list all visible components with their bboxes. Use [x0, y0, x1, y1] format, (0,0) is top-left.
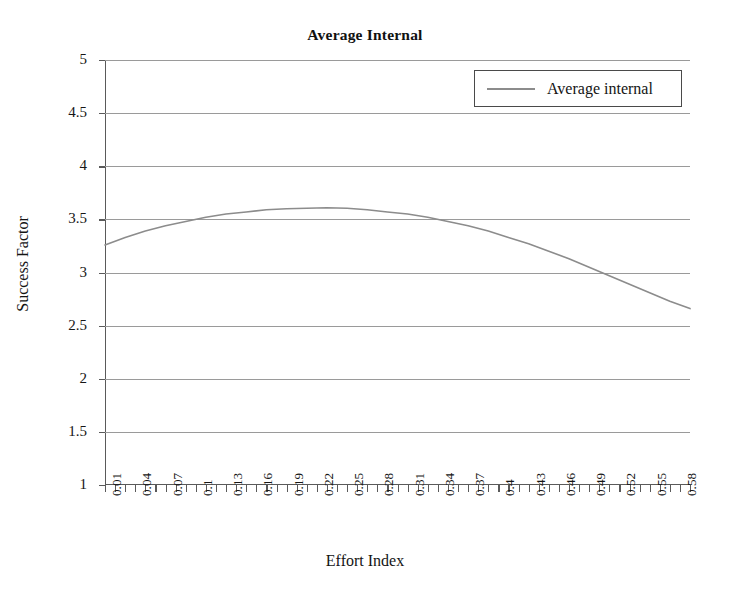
- x-axis-tick: [559, 485, 560, 492]
- y-axis-tick-label: 2: [27, 371, 87, 386]
- x-axis-tick-label: 0.58: [685, 473, 698, 496]
- x-axis-tick: [498, 485, 499, 492]
- x-axis-tick-label: 0.31: [413, 473, 426, 496]
- x-axis-tick: [287, 485, 288, 492]
- x-axis-tick: [428, 485, 429, 492]
- x-axis-tick-label: 0.46: [564, 473, 577, 496]
- y-axis-tick-label: 4.5: [27, 105, 87, 120]
- x-axis-tick: [347, 485, 348, 492]
- x-axis-tick: [458, 485, 459, 492]
- x-axis-tick-label: 0.49: [594, 473, 607, 496]
- x-axis-tick: [609, 485, 610, 492]
- x-axis-tick: [226, 485, 227, 492]
- x-axis-tick-label: 0.28: [382, 473, 395, 496]
- y-axis-tick-label: 1: [27, 477, 87, 492]
- legend-label: Average internal: [547, 80, 653, 98]
- x-axis-tick: [256, 485, 257, 492]
- x-axis-tick-label: 0.07: [171, 473, 184, 496]
- x-axis-tick: [307, 485, 308, 492]
- x-axis-tick-label: 0.01: [110, 473, 123, 496]
- series-line-average-internal: [105, 60, 690, 485]
- x-axis-tick-label: 0.16: [261, 473, 274, 496]
- plot-area: [105, 60, 690, 485]
- x-axis-tick: [519, 485, 520, 492]
- x-axis-tick: [579, 485, 580, 492]
- y-axis-tick-label: 2.5: [27, 318, 87, 333]
- y-axis-tick-label: 1.5: [27, 424, 87, 439]
- x-axis-tick: [438, 485, 439, 492]
- x-axis-tick: [408, 485, 409, 492]
- x-axis-tick: [589, 485, 590, 492]
- x-axis-title: Effort Index: [0, 552, 730, 570]
- x-axis-tick-label: 0.52: [624, 473, 637, 496]
- y-axis-tick-label: 5: [27, 52, 87, 67]
- x-axis-tick-label: 0.04: [140, 473, 153, 496]
- x-axis-tick-label: 0.19: [292, 473, 305, 496]
- x-axis-tick-label: 0.1: [201, 480, 214, 496]
- x-axis-tick-label: 0.13: [231, 473, 244, 496]
- x-axis-tick: [277, 485, 278, 492]
- chart-container: Average Internal 54.543.532.521.51 0.010…: [0, 0, 730, 594]
- x-axis-tick: [619, 485, 620, 492]
- x-axis-tick: [196, 485, 197, 492]
- y-axis-tick-label: 4: [27, 158, 87, 173]
- x-axis-tick: [529, 485, 530, 492]
- x-axis-tick: [125, 485, 126, 492]
- x-axis-tick: [105, 485, 106, 492]
- x-axis-tick: [337, 485, 338, 492]
- y-axis-tick-label: 3.5: [27, 211, 87, 226]
- x-axis-tick: [216, 485, 217, 492]
- x-axis-tick: [640, 485, 641, 492]
- x-axis-tick-label: 0.4: [503, 480, 516, 496]
- x-axis-tick-label: 0.34: [443, 473, 456, 496]
- x-axis-tick: [377, 485, 378, 492]
- x-axis-tick: [468, 485, 469, 492]
- chart-legend: Average internal: [474, 70, 682, 107]
- x-axis-tick: [367, 485, 368, 492]
- x-axis-tick-label: 0.25: [352, 473, 365, 496]
- x-axis-tick: [166, 485, 167, 492]
- x-axis-tick-label: 0.43: [534, 473, 547, 496]
- x-axis-tick-labels: 0.010.040.070.10.130.160.190.220.250.280…: [105, 496, 705, 556]
- x-axis-tick: [317, 485, 318, 492]
- x-axis-tick: [246, 485, 247, 492]
- x-axis-tick: [155, 485, 156, 492]
- x-axis-tick: [488, 485, 489, 492]
- x-axis-tick-label: 0.55: [655, 473, 668, 496]
- y-axis-tick-label: 3: [27, 265, 87, 280]
- x-axis-tick-label: 0.37: [473, 473, 486, 496]
- x-axis-tick: [135, 485, 136, 492]
- x-axis-tick: [398, 485, 399, 492]
- legend-line-swatch-icon: [487, 88, 535, 90]
- x-axis-tick: [650, 485, 651, 492]
- x-axis-tick: [670, 485, 671, 492]
- x-axis-tick: [549, 485, 550, 492]
- x-axis-tick-label: 0.22: [322, 473, 335, 496]
- y-axis-title: Success Factor: [14, 164, 32, 364]
- x-axis-tick: [680, 485, 681, 492]
- chart-title: Average Internal: [0, 26, 730, 44]
- x-axis-tick: [186, 485, 187, 492]
